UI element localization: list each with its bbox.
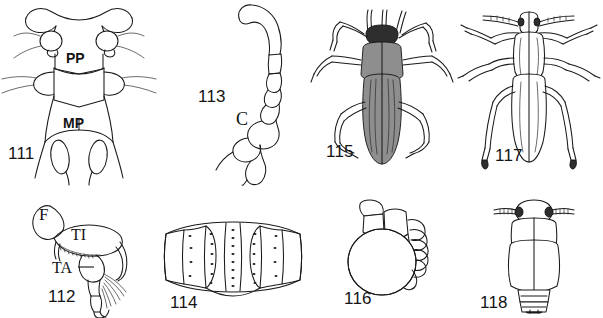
figure-111-number: 111 <box>8 145 34 162</box>
figure-117: 117 <box>455 2 603 182</box>
figure-111-label-mp: MP <box>63 116 84 130</box>
figure-112-number: 112 <box>48 288 76 305</box>
figure-115-number: 115 <box>326 143 354 160</box>
figure-116: 116 <box>340 198 450 310</box>
figure-112-label-ta: TA <box>52 260 72 276</box>
figure-111: PP MP 111 <box>0 0 160 185</box>
figure-113-label-c: C <box>236 110 248 128</box>
figure-111-label-pp: PP <box>66 51 85 65</box>
figure-118: 118 <box>480 198 600 313</box>
figure-117-drawing <box>455 2 603 182</box>
figure-114-number: 114 <box>170 294 198 311</box>
figure-113: 113 C <box>190 0 310 185</box>
figure-117-number: 117 <box>495 147 523 164</box>
figure-115: 115 <box>310 2 455 182</box>
fig113-linework <box>216 5 282 185</box>
figure-116-number: 116 <box>344 290 372 307</box>
fig115-linework <box>311 10 453 164</box>
fig117-linework <box>458 12 600 169</box>
figure-114: 114 <box>158 218 308 318</box>
figure-112: F TI TA 112 <box>20 200 150 318</box>
figure-113-number: 113 <box>198 88 226 105</box>
figure-118-number: 118 <box>480 294 508 311</box>
fig114-linework <box>165 222 302 296</box>
fig116-linework <box>348 200 428 295</box>
figure-112-label-f: F <box>39 206 48 223</box>
figure-plate: PP MP 111 <box>0 0 603 318</box>
figure-112-label-ti: TI <box>71 227 86 243</box>
